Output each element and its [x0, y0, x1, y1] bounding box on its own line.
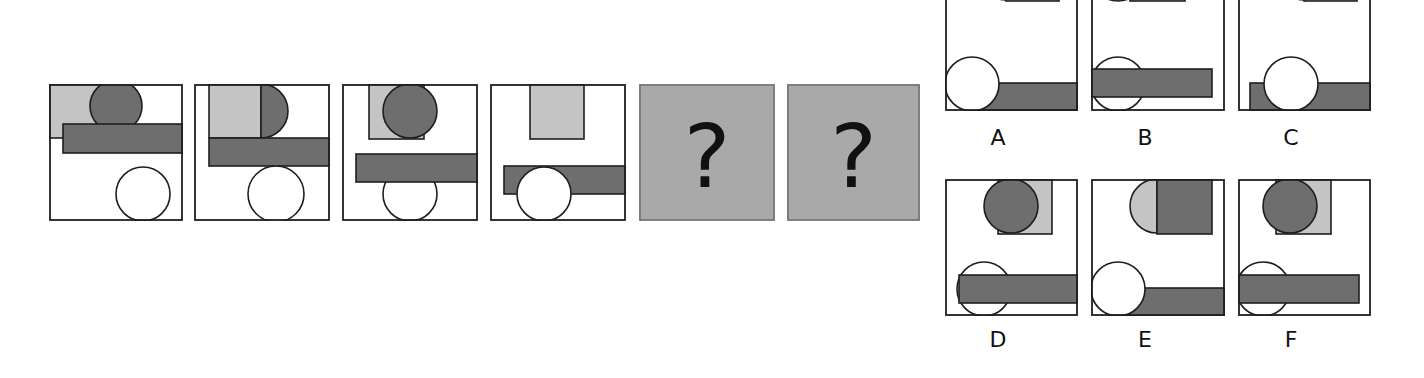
dark-circle-shape: [383, 84, 437, 138]
light-rect-shape: [1006, 0, 1059, 1]
white-circle-shape: [1091, 262, 1145, 316]
option-e-panel[interactable]: [1091, 179, 1225, 316]
unknown-panel-q2: ?: [787, 84, 920, 221]
unknown-panel-q1: ?: [639, 84, 775, 221]
dark-circle-shape: [1263, 179, 1317, 233]
dark-rect-shape: [63, 124, 183, 153]
sequence-panel-1: [49, 84, 183, 221]
option-c-panel[interactable]: [1238, 0, 1371, 111]
dark-rect-shape: [1091, 69, 1212, 97]
sequence-panel-3: [342, 84, 478, 221]
dark-rect-shape: [959, 275, 1078, 303]
dark-rect-shape: [209, 138, 330, 166]
white-circle-shape: [945, 57, 999, 111]
option-d-label[interactable]: D: [968, 328, 1028, 352]
option-e-label[interactable]: E: [1115, 328, 1175, 352]
light-rect-shape: [209, 84, 261, 138]
option-c-label[interactable]: C: [1261, 126, 1321, 150]
dark-rect-shape: [356, 154, 478, 182]
question-mark-icon: ?: [787, 84, 920, 221]
sequence-panel-2: [194, 84, 330, 221]
option-b-label[interactable]: B: [1115, 126, 1175, 150]
white-circle-shape: [1264, 57, 1318, 111]
option-d-panel[interactable]: [945, 179, 1078, 316]
option-f-label[interactable]: F: [1261, 328, 1321, 352]
dark-rect-shape: [1157, 179, 1212, 234]
light-rect-shape: [530, 84, 584, 139]
white-circle-shape: [248, 166, 304, 222]
option-a-panel[interactable]: [945, 0, 1078, 111]
dark-circle-shape: [984, 179, 1038, 233]
option-a-label[interactable]: A: [968, 126, 1028, 150]
light-rect-shape: [1304, 0, 1357, 1]
question-mark-icon: ?: [639, 84, 775, 221]
white-circle-shape: [517, 167, 571, 221]
option-b-panel[interactable]: [1091, 0, 1225, 111]
option-f-panel[interactable]: [1238, 179, 1371, 316]
sequence-panel-4: [490, 84, 626, 221]
dark-rect-shape: [1238, 275, 1359, 303]
light-rect-shape: [1130, 0, 1185, 1]
white-circle-shape: [116, 167, 170, 221]
